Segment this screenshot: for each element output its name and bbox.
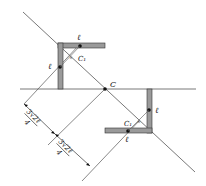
lower-c1-cross: ×	[137, 119, 140, 125]
label-upper-v-length: ℓ	[48, 62, 52, 71]
dim2-denominator: 4	[54, 148, 64, 158]
dim1-denominator: 4	[22, 118, 32, 128]
arrowhead	[24, 104, 28, 107]
perpendicular-line-center	[48, 89, 105, 145]
label-upper-c1: C₁	[78, 55, 86, 63]
label-lower-v-length: ℓ	[155, 106, 159, 115]
perpendicular-line-upper	[24, 44, 80, 104]
diagram-svg: × × C ℓ ℓ C₁ ℓ ℓ C₁ 3√2ℓ 4 3√2ℓ 4	[0, 0, 206, 186]
upper-c1-cross: ×	[69, 55, 72, 61]
dimension-label-1: 3√2ℓ 4	[18, 108, 43, 133]
dimension-label-2: 3√2ℓ 4	[50, 138, 75, 163]
center-point-c	[103, 87, 107, 91]
arrowhead	[86, 163, 90, 166]
label-c: C	[110, 80, 116, 89]
diagram-canvas: × × C ℓ ℓ C₁ ℓ ℓ C₁ 3√2ℓ 4 3√2ℓ 4	[0, 0, 206, 186]
label-upper-h-length: ℓ	[77, 33, 81, 42]
diagonal-axis-line	[23, 12, 195, 172]
arrowhead	[51, 131, 55, 134]
label-lower-c1: C₁	[124, 120, 132, 128]
label-lower-h-length: ℓ	[125, 135, 129, 144]
